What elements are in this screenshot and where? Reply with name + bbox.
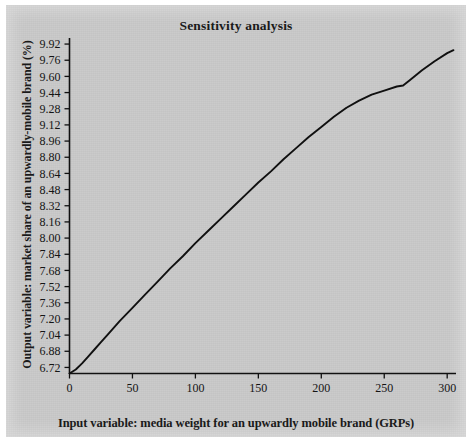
y-tick-label: 6.88 xyxy=(40,344,61,358)
y-tick-label: 9.44 xyxy=(40,86,61,100)
y-tick-label: 7.84 xyxy=(40,247,61,261)
y-tick-label: 8.16 xyxy=(40,215,61,229)
y-tick-label: 8.80 xyxy=(40,150,61,164)
y-tick-label: 8.32 xyxy=(40,199,61,213)
plot-area: 6.726.887.047.207.367.527.687.848.008.16… xyxy=(0,0,472,445)
y-tick-label: 8.64 xyxy=(40,167,61,181)
y-tick-label: 8.00 xyxy=(40,231,61,245)
y-tick-label: 9.28 xyxy=(40,102,61,116)
x-tick-label: 250 xyxy=(375,381,393,395)
y-tick-label: 7.68 xyxy=(40,264,61,278)
y-tick-label: 7.20 xyxy=(40,312,61,326)
data-series-line xyxy=(70,50,454,373)
y-tick-label: 9.12 xyxy=(40,118,61,132)
x-tick-label: 200 xyxy=(312,381,330,395)
y-tick-label: 7.52 xyxy=(40,280,61,294)
x-tick-label: 150 xyxy=(249,381,267,395)
chart-figure: Sensitivity analysis Output variable: ma… xyxy=(0,0,472,445)
y-tick-label: 7.04 xyxy=(40,328,61,342)
y-tick-group: 6.726.887.047.207.367.527.687.848.008.16… xyxy=(40,37,70,374)
y-tick-label: 9.76 xyxy=(40,53,61,67)
y-tick-label: 6.72 xyxy=(40,361,61,375)
x-tick-label: 100 xyxy=(186,381,204,395)
x-tick-group: 050100150200250300 xyxy=(67,374,457,395)
y-tick-label: 8.96 xyxy=(40,134,61,148)
y-tick-label: 8.48 xyxy=(40,183,61,197)
y-tick-label: 7.36 xyxy=(40,296,61,310)
x-tick-label: 50 xyxy=(126,381,138,395)
x-tick-label: 300 xyxy=(438,381,456,395)
y-tick-label: 9.60 xyxy=(40,70,61,84)
y-tick-label: 9.92 xyxy=(40,37,61,51)
x-tick-label: 0 xyxy=(67,381,73,395)
